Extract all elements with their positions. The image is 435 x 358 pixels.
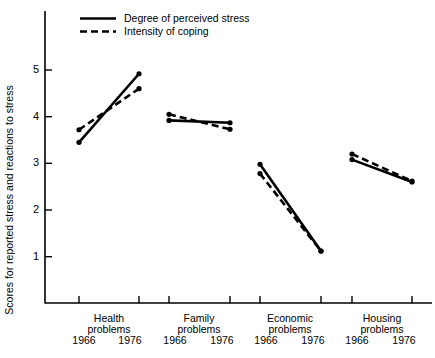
year-label-family-1966: 1966: [163, 334, 187, 346]
x-axis-group-labels: Health problems Family problems Economic…: [87, 312, 403, 335]
y-axis-title: Scores for reported stress and reactions…: [3, 85, 15, 314]
series-segment: [352, 154, 412, 181]
year-label-health-1976: 1976: [118, 334, 142, 346]
data-point-marker: [257, 171, 262, 176]
series-segment: [352, 160, 412, 182]
series-segment: [260, 174, 321, 251]
chart-figure: Scores for reported stress and reactions…: [0, 0, 435, 358]
data-point-marker: [227, 120, 232, 125]
data-point-marker: [349, 157, 354, 162]
series-degree-of-perceived-stress: [76, 71, 414, 254]
data-point-marker: [136, 71, 141, 76]
data-point-marker: [318, 248, 323, 253]
year-label-housing-1966: 1966: [345, 334, 369, 346]
x-axis-ticks: [79, 296, 412, 303]
data-point-marker: [227, 127, 232, 132]
y-axis-ticks: [45, 70, 52, 257]
year-label-health-1966: 1966: [72, 334, 96, 346]
data-point-marker: [166, 112, 171, 117]
series-layer: [76, 71, 414, 254]
year-label-economic-1976: 1976: [301, 334, 325, 346]
data-point-marker: [76, 127, 81, 132]
chart-canvas: Scores for reported stress and reactions…: [0, 0, 435, 358]
data-point-marker: [76, 140, 81, 145]
y-tick-label: 5: [33, 63, 39, 75]
year-label-economic-1966: 1966: [254, 334, 278, 346]
y-axis-tick-labels: 5 4 3 2 1: [33, 63, 39, 262]
legend-label-intensity-of-coping: Intensity of coping: [124, 25, 209, 37]
data-point-marker: [136, 86, 141, 91]
series-segment: [79, 89, 139, 130]
data-point-marker: [166, 118, 171, 123]
data-point-marker: [257, 162, 262, 167]
series-segment: [169, 120, 230, 122]
year-label-housing-1976: 1976: [392, 334, 416, 346]
year-label-family-1976: 1976: [210, 334, 234, 346]
y-tick-label: 4: [33, 110, 39, 122]
y-tick-label: 3: [33, 156, 39, 168]
data-point-marker: [349, 151, 354, 156]
x-axis-year-labels: 1966 1976 1966 1976 1966 1976 1966 1976: [72, 334, 416, 346]
y-tick-label: 2: [33, 203, 39, 215]
legend-label-degree-of-perceived-stress: Degree of perceived stress: [124, 12, 249, 24]
y-tick-label: 1: [33, 250, 39, 262]
series-intensity-of-coping: [76, 86, 414, 254]
data-point-marker: [409, 178, 414, 183]
chart-legend: Degree of perceived stress Intensity of …: [80, 12, 249, 37]
